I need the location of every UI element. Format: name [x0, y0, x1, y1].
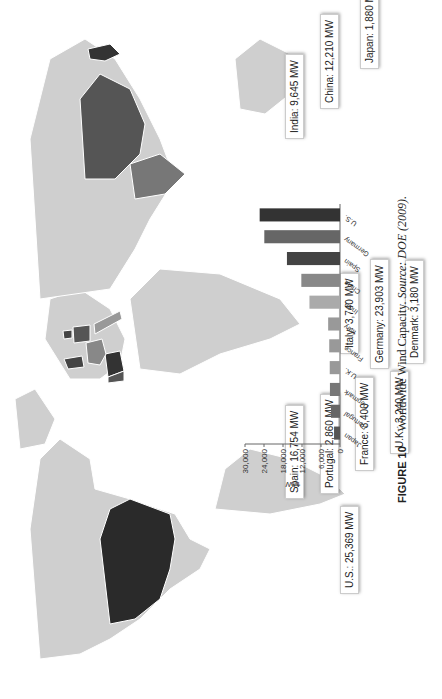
- bar: [309, 296, 340, 309]
- x-tick-label: Japan: [342, 431, 362, 449]
- source-label: Source:: [395, 262, 409, 299]
- x-tick-label: Portugal: [342, 409, 368, 431]
- india-shape: [130, 154, 185, 199]
- bar: [330, 361, 340, 374]
- australia-shape: [235, 39, 290, 114]
- x-tick-label: Germany: [342, 235, 371, 258]
- y-tick-label: 6,000: [317, 448, 326, 469]
- bar: [287, 252, 340, 265]
- bar: [334, 427, 340, 440]
- denmark-shape: [63, 330, 72, 339]
- x-tick-label: Spain: [342, 257, 361, 274]
- y-tick-label: 12,000: [298, 448, 307, 473]
- x-tick-label: U.K.: [343, 367, 358, 381]
- x-tick-label: Denmark: [342, 388, 370, 410]
- x-tick-label: U.S.: [343, 214, 358, 228]
- bar: [264, 230, 340, 243]
- y-tick-label: 30,000: [241, 448, 250, 473]
- figure-caption: FIGURE 10 Worldwide Wind Capacity. Sourc…: [395, 0, 410, 699]
- greenland-shape: [15, 389, 55, 449]
- bar-chart: 06,00012,00018,00024,00030,000MWJapanPor…: [235, 194, 385, 494]
- y-tick-label: 0: [336, 448, 345, 453]
- map-label-japan: Japan: 1,880 MW: [360, 0, 379, 69]
- x-tick-label: India: [342, 301, 359, 316]
- germany-shape: [73, 325, 90, 343]
- map-label-china: China: 12,210 MW: [320, 14, 339, 109]
- caption-text: Worldwide Wind Capacity.: [395, 302, 409, 432]
- bar: [328, 317, 340, 330]
- map-label-us: U.S.: 25,369 MW: [340, 506, 359, 594]
- y-tick-label: 24,000: [260, 448, 269, 473]
- y-tick-label: 18,000: [279, 448, 288, 473]
- y-axis-label: MW: [285, 480, 300, 489]
- figure-number: FIGURE 10: [396, 446, 408, 503]
- map-label-india: India: 9,645 MW: [285, 54, 304, 139]
- bar: [329, 339, 340, 352]
- x-tick-label: Italy: [342, 322, 358, 336]
- rotated-page: U.S.: 25,369 MW U.K.: 3,240 MW France: 3…: [0, 0, 442, 699]
- x-tick-label: France: [342, 345, 364, 363]
- bar: [301, 274, 340, 287]
- us-shape: [100, 499, 175, 624]
- bar: [331, 405, 340, 418]
- x-tick-label: China: [342, 279, 361, 295]
- bar: [260, 208, 340, 221]
- bar: [330, 383, 340, 396]
- source-text: DOE (2009).: [395, 196, 409, 259]
